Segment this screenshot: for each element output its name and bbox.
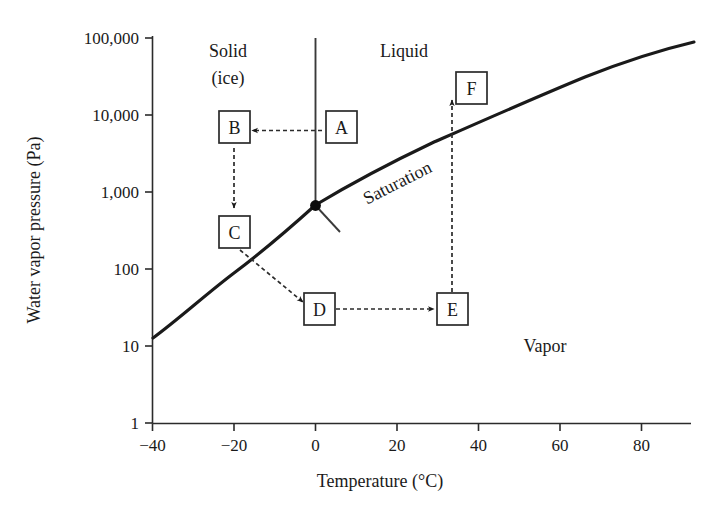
- x-tick-label-minus40: −40: [139, 436, 166, 455]
- process-node-a[interactable]: A: [326, 111, 357, 143]
- process-node-c[interactable]: C: [219, 216, 250, 248]
- process-node-f[interactable]: F: [456, 72, 487, 104]
- region-label-solid: Solid: [209, 41, 247, 61]
- node-label-d: D: [313, 300, 326, 320]
- x-tick-label-60: 60: [552, 436, 569, 455]
- y-tick-label-10000: 10,000: [92, 106, 139, 125]
- y-axis-ticks: [145, 38, 153, 423]
- x-axis-ticks: [153, 424, 642, 432]
- phase-diagram-figure: 100,000 10,000 1,000 100 10 1 −40 −20: [0, 0, 726, 516]
- x-tick-label-minus20: −20: [221, 436, 248, 455]
- triple-point-marker: [310, 200, 321, 211]
- x-axis-title: Temperature (°C): [317, 471, 443, 492]
- node-label-c: C: [228, 223, 240, 243]
- node-label-e: E: [447, 300, 458, 320]
- y-tick-label-100: 100: [114, 260, 140, 279]
- y-tick-label-1000: 1,000: [101, 183, 139, 202]
- y-tick-label-1: 1: [131, 414, 140, 433]
- triple-point-branch-line: [316, 206, 340, 232]
- y-axis-tick-labels: 100,000 10,000 1,000 100 10 1: [84, 29, 139, 433]
- saturation-curve-label: Saturation: [360, 157, 435, 208]
- process-node-b[interactable]: B: [219, 111, 250, 143]
- process-node-d[interactable]: D: [304, 293, 335, 325]
- x-tick-label-20: 20: [389, 436, 406, 455]
- axes-group: 100,000 10,000 1,000 100 10 1 −40 −20: [24, 29, 691, 492]
- region-label-solid-ice: (ice): [212, 68, 245, 89]
- x-axis-tick-labels: −40 −20 0 20 40 60 80: [139, 436, 650, 455]
- process-nodes-group: A B C D E F: [219, 72, 487, 325]
- y-axis-title: Water vapor pressure (Pa): [24, 137, 45, 324]
- arrow-c-to-d: [240, 250, 303, 302]
- region-label-liquid: Liquid: [380, 41, 428, 61]
- region-label-vapor: Vapor: [524, 336, 567, 356]
- process-node-e[interactable]: E: [437, 293, 468, 325]
- node-label-f: F: [466, 79, 476, 99]
- x-tick-label-40: 40: [470, 436, 487, 455]
- node-label-a: A: [335, 118, 348, 138]
- y-tick-label-10: 10: [122, 337, 139, 356]
- water-phase-diagram-chart: 100,000 10,000 1,000 100 10 1 −40 −20: [0, 0, 726, 516]
- node-label-b: B: [228, 118, 240, 138]
- x-tick-label-80: 80: [633, 436, 650, 455]
- y-tick-label-100000: 100,000: [84, 29, 139, 48]
- x-tick-label-0: 0: [311, 436, 320, 455]
